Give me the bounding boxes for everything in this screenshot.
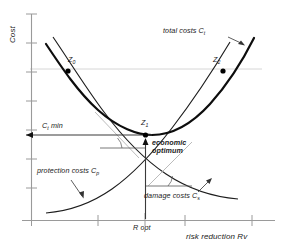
marker-label-z0: Z0 xyxy=(68,56,76,64)
r-opt-tick-label: R opt xyxy=(133,224,151,232)
r-opt-arrow-head xyxy=(143,138,149,145)
protection-costs-leader-arrow xyxy=(71,180,84,199)
damage-costs-label-subscript: s xyxy=(197,195,200,201)
marker-label-z0-text: Z xyxy=(68,55,73,64)
x-axis-title: risk reduction Rv xyxy=(186,232,247,241)
damage-costs-label-text: damage costs C xyxy=(144,191,197,200)
marker-label-z2-subscript: 2 xyxy=(218,59,221,65)
marker-label-z2-text: Z xyxy=(213,55,218,64)
economic-optimum-line2: optimum xyxy=(152,147,186,155)
marker-z0 xyxy=(65,68,70,73)
marker-z1 xyxy=(143,132,148,137)
ct-min-indicator-line xyxy=(26,132,152,138)
protection-costs-label: protection costs Cp xyxy=(37,167,99,175)
marker-label-z0-subscript: 0 xyxy=(73,59,76,65)
ct-min-label: Ct min xyxy=(42,122,63,130)
total-costs-leader-arrow xyxy=(228,37,245,46)
marker-z2 xyxy=(220,68,225,73)
ct-min-label-suffix: min xyxy=(49,121,63,130)
damage-costs-label: damage costs Cs xyxy=(144,192,200,200)
ct-min-label-subscript: t xyxy=(47,125,49,131)
protection-costs-label-text: protection costs C xyxy=(37,166,96,175)
marker-label-z1: Z1 xyxy=(141,119,149,127)
economic-optimum-chart: Cost risk reduction Rv total costs Ct pr… xyxy=(0,0,283,250)
economic-optimum-label: economic optimum xyxy=(152,139,186,156)
marker-label-z1-subscript: 1 xyxy=(146,122,149,128)
marker-label-z1-text: Z xyxy=(141,118,146,127)
y-axis-title: Cost xyxy=(8,13,17,57)
total-costs-label-text: total costs C xyxy=(163,26,204,35)
marker-label-z2: Z2 xyxy=(213,56,221,64)
total-costs-curve xyxy=(46,38,254,135)
total-costs-label: total costs Ct xyxy=(163,27,205,35)
protection-costs-label-subscript: p xyxy=(96,170,99,176)
damage-costs-leader-arrow xyxy=(198,178,212,192)
total-costs-label-subscript: t xyxy=(204,30,206,36)
